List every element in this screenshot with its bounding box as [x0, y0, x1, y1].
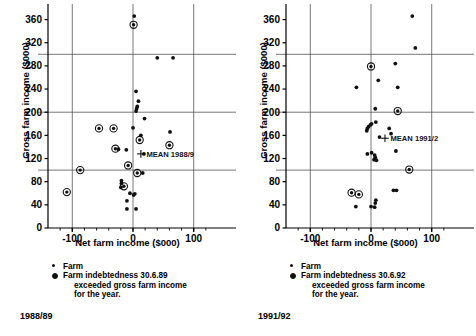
data-point-farm — [413, 46, 417, 50]
data-point-farm — [134, 89, 138, 93]
x-axis-label-left: Net farm income ($000) — [40, 237, 215, 248]
data-point-indebted — [138, 138, 141, 141]
data-point-farm — [373, 205, 377, 209]
data-point-indebted — [357, 193, 360, 196]
plot-area-1988-89: 04080120160200240280320360-1000100MEAN 1… — [0, 0, 238, 250]
legend-label-indebted-line2: exceeded gross farm income — [63, 281, 232, 290]
y-axis-label-right: Gross farm income ($000) — [258, 21, 269, 181]
plot-area-1991-92: 04080120160200240280320360-1000100MEAN 1… — [238, 0, 476, 250]
data-point-farm — [155, 56, 159, 60]
indebted-ring-icon — [52, 273, 58, 279]
data-point-farm — [378, 135, 382, 139]
legend-item-indebted: Farm indebtedness 30.6.89 exceeded gross… — [52, 271, 232, 299]
mean-marker-label: MEAN 1988/9 — [146, 150, 194, 159]
data-point-farm — [124, 148, 128, 152]
data-point-farm — [134, 109, 138, 113]
y-tick-label: 0 — [274, 222, 280, 233]
panel-1991-92: 04080120160200240280320360-1000100MEAN 1… — [238, 0, 476, 336]
data-point-farm — [387, 127, 391, 131]
y-tick-label: 0 — [36, 222, 42, 233]
data-point-indebted — [112, 127, 115, 130]
data-point-farm — [354, 205, 358, 209]
data-point-farm — [131, 126, 135, 130]
mean-marker-label: MEAN 1991/2 — [390, 134, 438, 143]
y-tick-label: 80 — [269, 176, 281, 187]
panel-1988-89: 04080120160200240280320360-1000100MEAN 1… — [0, 0, 238, 336]
data-point-farm — [134, 207, 138, 211]
data-point-farm — [369, 205, 373, 209]
scatter-plot-1988-89: 04080120160200240280320360-1000100MEAN 1… — [0, 0, 238, 250]
data-point-farm — [171, 56, 175, 60]
data-point-indebted — [114, 147, 117, 150]
data-point-farm — [396, 85, 400, 89]
data-point-farm — [393, 62, 397, 66]
scatter-plot-1991-92: 04080120160200240280320360-1000100MEAN 1… — [238, 0, 476, 250]
x-axis-label-right: Net farm income ($000) — [278, 237, 453, 248]
data-point-farm — [373, 107, 377, 111]
data-point-farm — [355, 85, 359, 89]
farm-dot-icon — [290, 264, 293, 267]
data-point-farm — [365, 129, 369, 133]
data-point-farm — [410, 14, 414, 18]
data-point-indebted — [168, 144, 171, 147]
indebted-ring-icon — [290, 273, 296, 279]
data-point-farm — [128, 191, 132, 195]
legend-label-indebted-line3: for the year. — [63, 290, 232, 299]
data-point-farm — [376, 78, 380, 82]
legend-1988-89: Farm Farm indebtedness 30.6.89 exceeded … — [52, 262, 232, 300]
data-point-indebted — [396, 109, 399, 112]
data-point-indebted — [369, 65, 372, 68]
data-point-indebted — [126, 164, 129, 167]
data-point-farm — [132, 14, 136, 18]
data-point-indebted — [408, 168, 411, 171]
period-label-1988-89: 1988/89 — [20, 311, 53, 321]
legend-label-farm: Farm — [301, 262, 321, 271]
data-point-farm — [365, 152, 369, 156]
data-point-indebted — [122, 185, 125, 188]
y-tick-label: 40 — [269, 199, 281, 210]
legend-item-farm: Farm — [290, 262, 470, 271]
data-point-indebted — [97, 127, 100, 130]
legend-label-indebted-line3: for the year. — [301, 290, 470, 299]
legend-item-farm: Farm — [52, 262, 232, 271]
data-point-farm — [143, 117, 147, 121]
y-axis-label-left: Gross farm income ($000) — [20, 21, 31, 181]
data-point-indebted — [65, 190, 68, 193]
data-point-farm — [125, 199, 129, 203]
legend-1991-92: Farm Farm indebtedness 30.6.92 exceeded … — [290, 262, 470, 300]
legend-label-indebted-line2: exceeded gross farm income — [301, 281, 470, 290]
data-point-farm — [125, 207, 129, 211]
data-point-farm — [370, 151, 374, 155]
legend-label-farm: Farm — [63, 262, 83, 271]
legend-item-indebted: Farm indebtedness 30.6.92 exceeded gross… — [290, 271, 470, 299]
period-label-1991-92: 1991/92 — [258, 311, 291, 321]
data-point-farm — [132, 193, 136, 197]
data-point-farm — [137, 99, 141, 103]
data-point-farm — [395, 188, 399, 192]
data-point-farm — [373, 201, 377, 205]
y-tick-label: 40 — [31, 199, 43, 210]
y-tick-label: 80 — [31, 176, 43, 187]
data-point-indebted — [136, 171, 139, 174]
legend-label-indebted: Farm indebtedness 30.6.92 — [301, 271, 406, 280]
data-point-farm — [374, 120, 378, 124]
data-point-indebted — [350, 191, 353, 194]
data-point-indebted — [78, 168, 81, 171]
data-point-farm — [168, 130, 172, 134]
data-point-farm — [394, 149, 398, 153]
legend-label-indebted: Farm indebtedness 30.6.89 — [63, 271, 168, 280]
data-point-indebted — [132, 23, 135, 26]
farm-dot-icon — [52, 264, 55, 267]
data-point-farm — [375, 158, 379, 162]
